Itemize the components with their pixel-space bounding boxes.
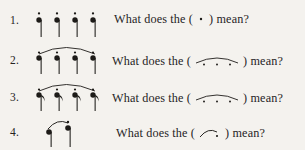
note-group-4 <box>90 51 95 74</box>
note-group-4 <box>90 88 98 111</box>
note-group-4 <box>90 12 95 37</box>
question-text-before-2: What does the ( <box>112 54 191 68</box>
note-group-3 <box>72 12 77 37</box>
question-text-2: What does the ( ) mean? <box>112 54 283 69</box>
question-row-3: 3. <box>0 79 305 117</box>
notation-four-eighth-notes-staccato-slur <box>34 79 106 113</box>
question-text-after-2: ) mean? <box>243 54 283 68</box>
question-text-before-4: What does the ( <box>116 126 195 140</box>
eighth-flag <box>96 95 99 101</box>
question-text-after-1: ) mean? <box>209 12 249 26</box>
slur-with-dots-symbol <box>191 91 243 105</box>
slur-arc-small <box>196 58 238 63</box>
eighth-flag <box>42 95 45 101</box>
question-row-1: 1. <box>0 6 305 44</box>
question-number-2: 2. <box>10 54 19 66</box>
question-text-before-3: What does the ( <box>112 91 191 105</box>
slur-arc-tiny <box>200 131 217 138</box>
question-text-4: What does the ( ) mean? <box>116 126 265 141</box>
staccato-dot-symbol <box>193 14 209 24</box>
note-group-2 <box>65 121 71 147</box>
note-group-2 <box>54 12 59 37</box>
question-row-4: 4. What does the ( <box>0 114 305 150</box>
question-number-1: 1. <box>10 14 19 26</box>
slur-arc-small <box>196 95 238 100</box>
question-number-4: 4. <box>10 126 19 138</box>
question-number-3: 3. <box>10 91 19 103</box>
short-slur-with-dot-symbol <box>195 126 225 140</box>
question-text-1: What does the ( ) mean? <box>114 12 249 27</box>
note-group-1 <box>46 129 52 147</box>
slur-arc <box>39 48 95 55</box>
note-group-2 <box>54 88 62 111</box>
note-group-1 <box>36 12 41 37</box>
question-text-after-3: ) mean? <box>243 91 283 105</box>
eighth-flag <box>60 95 63 101</box>
slur-arc <box>39 85 95 92</box>
question-text-before-1: What does the ( <box>114 12 193 26</box>
slur-with-dots-symbol <box>191 54 243 68</box>
slur-arc-short <box>48 121 68 129</box>
notation-two-notes-slur-staccato <box>44 114 88 148</box>
worksheet-page: 1. <box>0 0 305 150</box>
question-text-3: What does the ( ) mean? <box>112 91 283 106</box>
notation-four-quarter-notes-staccato <box>34 8 106 40</box>
question-row-2: 2. <box>0 42 305 80</box>
note-group-1 <box>36 51 41 74</box>
question-text-after-4: ) mean? <box>225 126 265 140</box>
note-group-1 <box>36 88 44 111</box>
notation-four-quarter-notes-staccato-slur <box>34 42 106 76</box>
note-group-2 <box>54 51 59 74</box>
note-group-3 <box>72 51 77 74</box>
eighth-flag <box>78 95 81 101</box>
note-group-3 <box>72 88 80 111</box>
